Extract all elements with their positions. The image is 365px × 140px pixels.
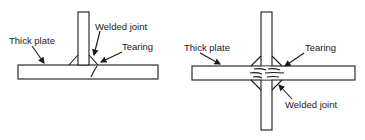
lamellar-tearing-diagram: Thick plate Welded joint Tearing Thick p… (0, 0, 365, 140)
thick-plate-leader (200, 53, 220, 64)
weld-left (69, 55, 78, 65)
label-thick-plate: Thick plate (184, 42, 230, 53)
weld-top-right (272, 56, 282, 66)
stem-plate-vertical (78, 12, 89, 65)
tearing-leader (285, 53, 304, 66)
weld-bottom-right (272, 80, 282, 90)
label-welded-joint: Welded joint (95, 21, 147, 32)
label-welded-joint: Welded joint (285, 99, 337, 110)
label-tearing: Tearing (122, 41, 153, 52)
weld-right (89, 55, 98, 65)
tee-joint-figure: Thick plate Welded joint Tearing (9, 12, 158, 79)
welded-joint-leader (279, 85, 292, 99)
cruciform-joint-figure: Thick plate Tearing Welded joint (184, 12, 355, 130)
tearing-leader (101, 52, 122, 62)
label-tearing: Tearing (305, 42, 336, 53)
thick-plate-horizontal (18, 65, 158, 79)
weld-top-left (251, 56, 261, 66)
label-thick-plate: Thick plate (9, 35, 55, 46)
welded-joint-leader (94, 31, 100, 55)
weld-bottom-left (251, 80, 261, 90)
thick-plate-leader (32, 46, 44, 63)
